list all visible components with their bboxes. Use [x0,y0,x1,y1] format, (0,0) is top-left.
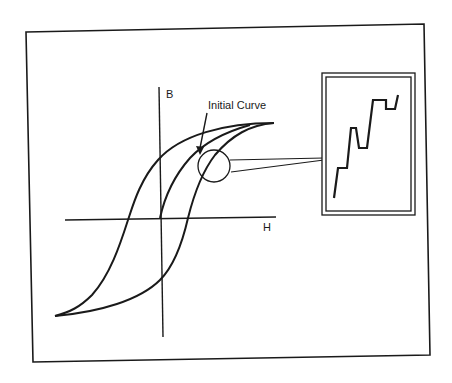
callout-line-top [230,158,324,160]
callout-line-bottom [231,160,324,172]
h-axis [65,217,276,220]
initial-curve-arrow-shaft [200,113,207,148]
hysteresis-diagram [0,0,452,383]
initial-curve-label: Initial Curve [208,100,266,111]
b-axis-label: B [166,89,173,100]
h-axis-label: H [263,222,271,233]
